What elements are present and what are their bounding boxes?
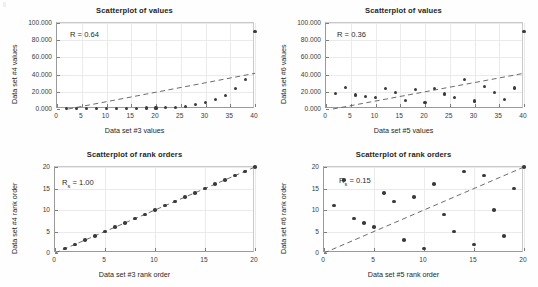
- data-point: [344, 86, 347, 89]
- data-point: [244, 78, 247, 81]
- data-point: [443, 92, 446, 95]
- data-point: [203, 187, 207, 191]
- y-axis-tick: [326, 75, 329, 76]
- y-axis-tick: [326, 23, 329, 24]
- x-axis-tick-label: 15: [469, 256, 476, 263]
- x-axis-tick-label: 10: [371, 112, 378, 119]
- grid-line-vertical: [474, 167, 475, 251]
- x-axis-tick-label: 25: [176, 112, 183, 119]
- data-point: [402, 238, 406, 242]
- y-axis-tick: [324, 232, 327, 233]
- data-point: [422, 247, 426, 251]
- x-axis-tick-label: 40: [519, 112, 526, 119]
- grid-line-vertical: [450, 23, 451, 107]
- correlation-value: = 1.00: [70, 178, 93, 187]
- data-point: [95, 107, 98, 110]
- grid-line-vertical: [524, 23, 525, 107]
- data-point: [233, 174, 237, 178]
- grid-line-horizontal: [55, 167, 253, 168]
- grid-line-vertical: [181, 23, 182, 107]
- data-point: [334, 92, 337, 95]
- y-axis-tick-label: 10: [312, 206, 319, 213]
- x-axis-title: Data set #3 values: [0, 126, 269, 135]
- chart-panel-values-3-vs-4: Scatterplot of values Data set #4 values…: [0, 0, 269, 143]
- data-point: [113, 225, 117, 229]
- grid-line-vertical: [475, 23, 476, 107]
- x-axis-title: Data set #5 rank order: [269, 270, 538, 279]
- x-axis-tick: [205, 248, 206, 251]
- data-point: [65, 107, 68, 110]
- grid-line-vertical: [156, 23, 157, 107]
- y-axis-tick: [324, 210, 327, 211]
- grid-line-horizontal: [57, 23, 253, 24]
- data-point: [234, 87, 237, 90]
- data-point: [372, 225, 376, 229]
- y-axis-title: Data set #6 values: [279, 44, 288, 104]
- grid-line-vertical: [400, 23, 401, 107]
- grid-line-vertical: [230, 23, 231, 107]
- data-point: [183, 195, 187, 199]
- data-point: [145, 106, 148, 109]
- x-axis-tick-label: 20: [151, 112, 158, 119]
- data-point: [194, 103, 197, 106]
- data-point: [522, 30, 525, 33]
- x-axis-tick: [181, 104, 182, 107]
- data-point: [442, 213, 446, 217]
- y-axis-tick: [57, 109, 60, 110]
- x-axis-tick-label: 10: [102, 112, 109, 119]
- x-axis-tick: [255, 248, 256, 251]
- y-axis-tick-label: 0.000: [35, 105, 52, 112]
- data-point: [492, 208, 496, 212]
- y-axis-tick: [55, 253, 58, 254]
- x-axis-tick: [474, 248, 475, 251]
- data-point: [433, 87, 436, 90]
- x-axis-tick-label: 10: [419, 256, 426, 263]
- data-point: [352, 217, 356, 221]
- data-point: [452, 230, 456, 234]
- data-point: [213, 182, 217, 186]
- y-axis-tick-label: 20: [312, 163, 319, 170]
- y-axis-tick: [55, 232, 58, 233]
- chart-title: Scatterplot of rank orders: [269, 150, 538, 159]
- data-point: [432, 182, 436, 186]
- y-axis-tick-label: 5: [315, 227, 319, 234]
- x-axis-tick-label: 20: [420, 112, 427, 119]
- grid-line-vertical: [255, 23, 256, 107]
- grid-line-vertical: [499, 23, 500, 107]
- y-axis-tick-label: 40.000: [32, 70, 52, 77]
- data-point: [143, 213, 147, 217]
- chart-title: Scatterplot of values: [269, 6, 538, 15]
- data-point: [394, 91, 397, 94]
- y-axis-tick: [324, 167, 327, 168]
- x-axis-tick-label: 35: [495, 112, 502, 119]
- x-axis-tick: [324, 248, 325, 251]
- y-axis-tick: [326, 40, 329, 41]
- x-axis-tick-label: 15: [396, 112, 403, 119]
- data-point: [414, 88, 417, 91]
- y-axis-title: Data set #4 values: [10, 44, 19, 104]
- y-axis-tick-label: 60.000: [301, 53, 321, 60]
- x-axis-tick: [255, 104, 256, 107]
- chart-title: Scatterplot of rank orders: [0, 150, 269, 159]
- grid-line-horizontal: [324, 232, 522, 233]
- data-point: [362, 221, 366, 225]
- chart-title: Scatterplot of values: [0, 6, 269, 15]
- data-point: [163, 204, 167, 208]
- data-point: [473, 99, 476, 102]
- grid-line-horizontal: [326, 57, 522, 58]
- data-point: [472, 243, 476, 247]
- correlation-annotation: R = 0.64: [70, 30, 99, 39]
- x-axis-tick-label: 5: [371, 256, 375, 263]
- grid-line-horizontal: [55, 232, 253, 233]
- x-axis-tick: [206, 104, 207, 107]
- data-point: [462, 170, 466, 174]
- y-axis-tick-label: 0: [46, 249, 50, 256]
- data-point: [105, 107, 108, 110]
- y-axis-tick: [324, 189, 327, 190]
- data-point: [482, 174, 486, 178]
- grid-line-vertical: [374, 167, 375, 251]
- x-axis-tick: [374, 248, 375, 251]
- data-point: [133, 217, 137, 221]
- y-axis-tick-label: 40.000: [301, 70, 321, 77]
- grid-line-horizontal: [324, 189, 522, 190]
